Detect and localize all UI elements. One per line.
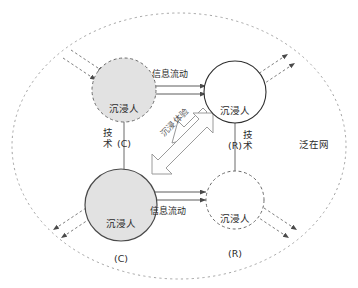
node-bottom-right-label: 沉浸人 (R) — [203, 189, 267, 284]
bottom-information-flow — [152, 192, 206, 200]
node-top-left-label: 沉浸人 (C) — [92, 79, 156, 174]
node-top-right-label: 沉浸人 (R) — [203, 81, 267, 176]
outer-boundary-label: 泛在网 — [299, 140, 329, 151]
bottom-flow-label: 信息流动 — [150, 206, 186, 216]
node-bottom-left-label: 沉浸人 (C) — [89, 194, 153, 288]
diagram-canvas: 沉浸人 (C) 沉浸人 (R) 沉浸人 (C) 沉浸人 (R) 信息流动 信息流… — [0, 0, 358, 288]
top-flow-label: 信息流动 — [152, 69, 188, 79]
left-tech-label: 技术 — [101, 128, 112, 150]
right-tech-label: 技术 — [241, 130, 252, 152]
top-information-flow — [152, 86, 206, 94]
